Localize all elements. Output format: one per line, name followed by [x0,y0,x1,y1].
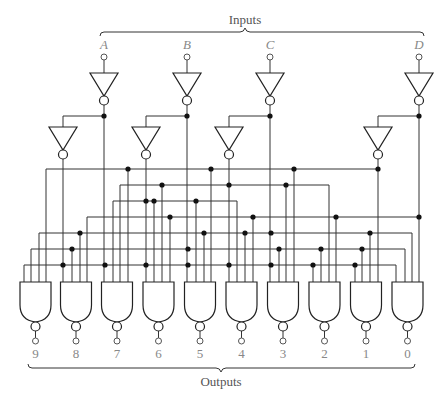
nand-bubble-2 [320,322,329,331]
junction-dot [77,230,82,235]
inverter-bubble-c [266,96,275,105]
nand-gate-4 [226,282,257,322]
junction-dot [226,182,231,187]
junction-dot [250,214,255,219]
output-pin-0 [405,338,411,344]
inverter-a-not [49,127,77,150]
junction-dot [208,166,213,171]
input-pin-c [267,54,273,60]
junction-dot [185,246,190,251]
nand-gate-0 [392,282,423,322]
junction-dot [167,214,172,219]
junction-dot [101,113,106,118]
junction-dot [375,166,380,171]
nand-gate-8 [61,282,92,322]
nand-bubble-1 [362,322,371,331]
junction-dot [367,230,372,235]
junction-dot [416,214,421,219]
input-label-d: D [414,37,423,53]
junction-dot [226,262,231,267]
junction-dot [333,214,338,219]
output-pin-6 [156,338,162,344]
nand-bubble-3 [279,322,288,331]
junction-dot [267,113,272,118]
junction-dot [359,246,364,251]
inverter-b-not [132,127,160,150]
output-label-7: 7 [114,346,121,362]
junction-dot [102,262,107,267]
inverter-a [90,73,118,96]
nand-gate-9 [20,282,51,322]
inverter-bubble-d [415,96,424,105]
outputs-title: Outputs [200,374,241,390]
junction-dot [291,166,296,171]
output-pin-9 [33,338,39,344]
nand-bubble-9 [31,322,40,331]
junction-dot [151,198,156,203]
junction-dot [268,230,273,235]
junction-dot [184,113,189,118]
junction-dot [201,230,206,235]
inputs-title: Inputs [229,12,262,28]
input-pin-d [416,54,422,60]
inverter-b [173,73,201,96]
nand-bubble-8 [72,322,81,331]
nand-gate-6 [143,282,174,322]
inverter-bubble-b-not [142,150,151,159]
inverter-c-not [215,127,243,150]
nand-gate-3 [268,282,299,322]
junction-dot [125,166,130,171]
output-label-5: 5 [197,346,204,362]
junction-dot [159,182,164,187]
circuit-svg [0,0,441,400]
output-pin-8 [73,338,79,344]
junction-dot [352,262,357,267]
junction-dot [416,113,421,118]
nand-gate-5 [185,282,216,322]
input-pin-b [184,54,190,60]
inverter-c [256,73,284,96]
junction-dot [143,262,148,267]
nand-gate-7 [102,282,133,322]
output-label-4: 4 [238,346,245,362]
nand-bubble-5 [196,322,205,331]
input-label-c: C [266,37,275,53]
output-pin-1 [363,338,369,344]
output-label-1: 1 [363,346,370,362]
inputs-brace [100,28,424,36]
input-pin-a [101,54,107,60]
output-pin-7 [114,338,120,344]
inverter-bubble-d-not [374,150,383,159]
output-label-3: 3 [280,346,287,362]
junction-dot [60,262,65,267]
inverter-d [405,73,433,96]
output-label-2: 2 [321,346,328,362]
junction-dot [69,246,74,251]
inverter-bubble-c-not [225,150,234,159]
nand-bubble-6 [154,322,163,331]
junction-dot [276,246,281,251]
decoder-diagram: Inputs Outputs A B C D 9 8 7 6 5 4 3 2 1… [0,0,441,400]
nand-gate-2 [309,282,340,322]
input-label-a: A [100,37,108,53]
junction-dot [143,198,148,203]
output-pin-3 [280,338,286,344]
output-label-9: 9 [32,346,39,362]
junction-dot [185,262,190,267]
output-label-6: 6 [155,346,162,362]
nand-bubble-4 [237,322,246,331]
inverter-bubble-b [183,96,192,105]
junction-dot [193,198,198,203]
output-pin-2 [322,338,328,344]
junction-dot [318,246,323,251]
nand-gate-1 [351,282,382,322]
junction-dot [310,262,315,267]
inverter-d-not [364,127,392,150]
output-pin-4 [239,338,245,344]
nand-bubble-7 [113,322,122,331]
junction-dot [242,230,247,235]
junction-dot [283,182,288,187]
junction-dots [60,113,421,267]
outputs-brace [28,364,415,372]
gates [20,54,433,344]
